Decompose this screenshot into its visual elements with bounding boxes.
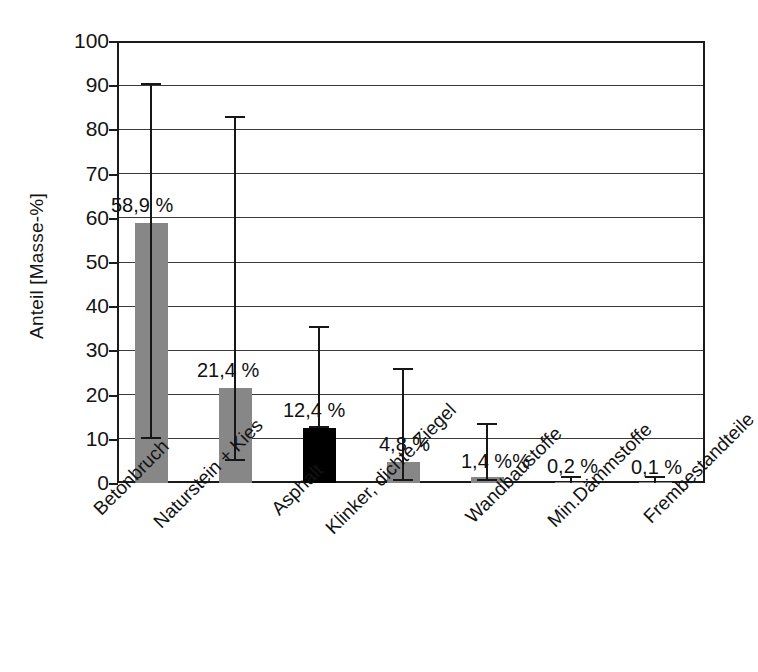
error-bar: [225, 116, 245, 461]
error-bar-cap-top: [309, 326, 329, 328]
error-bar-cap-top: [225, 116, 245, 118]
bar-value-label: 21,4 %: [197, 360, 259, 380]
error-bar-cap-bottom: [309, 426, 329, 428]
y-tick-label: 20: [9, 384, 109, 405]
error-bar-stem: [234, 116, 236, 461]
y-tick-label: 30: [9, 339, 109, 360]
y-tick-label: 50: [9, 251, 109, 272]
y-axis-ticks: 1009080706050403020100: [0, 41, 109, 483]
error-bar-cap-top: [393, 368, 413, 370]
bars-layer: 58,9 %21,4 %12,4 %4,8 %1,4 %%0,2 %0,1 %: [117, 41, 705, 483]
y-tick-label: 0: [9, 472, 109, 493]
y-tick-label: 100: [9, 30, 109, 51]
bar-value-label: 0,1 %: [631, 457, 682, 477]
bar-value-label: 12,4 %: [283, 400, 345, 420]
bar-value-label: 58,9 %: [111, 195, 173, 215]
y-tick-label: 10: [9, 428, 109, 449]
error-bar-stem: [150, 83, 152, 439]
y-tick-label: 70: [9, 163, 109, 184]
y-tick-label: 80: [9, 118, 109, 139]
error-bar: [141, 83, 161, 439]
y-tick-label: 60: [9, 207, 109, 228]
error-bar-cap-bottom: [393, 479, 413, 481]
error-bar-cap-top: [477, 423, 497, 425]
y-tick-label: 90: [9, 74, 109, 95]
y-tick-label: 40: [9, 295, 109, 316]
error-bar-cap-top: [141, 83, 161, 85]
